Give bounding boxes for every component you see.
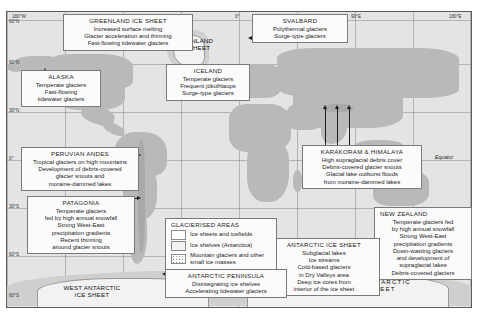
annotation-line: interior of the ice sheet: [274, 286, 374, 293]
annotation-header: GREENLAND ICE SHEET: [69, 17, 187, 25]
axis-label-lon-0: 0°: [235, 14, 239, 19]
annotation-line: Temperate glaciers: [33, 208, 129, 215]
annotation-line: Glacier acceleration and thinning: [69, 33, 187, 40]
annotation-header: ICELAND: [172, 67, 244, 75]
annotation-header: ANTARCTIC ICE SHEET: [274, 241, 374, 249]
legend-glacierised-areas[interactable]: GLACIERISED AREAS Ice sheets and icefiel…: [165, 218, 277, 270]
ice-shelves-swatch-icon: [171, 241, 186, 251]
annotation-header: ALASKA: [27, 73, 95, 81]
annotation-line: Fast-flowing tidewater glaciers: [69, 40, 187, 47]
legend-header: GLACIERISED AREAS: [171, 221, 271, 229]
annotation-line: High supraglacial debris cover: [308, 157, 416, 164]
leader-karakoram-b: [337, 108, 338, 150]
annotation-line: Development of debris-covered: [27, 166, 133, 173]
annotation-line: Surge-type glaciers: [172, 90, 244, 97]
arrow-patagonia: [137, 196, 141, 200]
annotation-line: Ice streams: [274, 257, 374, 264]
axis-label-lon-180e: 180°E: [449, 14, 462, 19]
annotation-line: Disintegrating ice shelves: [171, 281, 281, 288]
annotation-line: from moraine-dammed lakes: [308, 179, 416, 186]
annotation-header: SVALBARD: [258, 17, 342, 25]
annotation-line: around glacier snouts: [33, 244, 129, 251]
annotation-line: Temperate glaciers fed: [380, 219, 466, 226]
annotation-line: Cold-based glaciers: [274, 264, 374, 271]
legend-item-ice-shelves: Ice shelves (Antarctica): [171, 241, 271, 251]
legend-item-mountain-glaciers: Mountain glaciers and other small ice ma…: [171, 252, 271, 267]
annotation-header: NEW ZEALAND: [380, 210, 466, 218]
annotation-line: Accelerating tidewater glaciers: [171, 288, 281, 295]
leader-karakoram-c: [349, 108, 350, 150]
annotation-header: ANTARCTIC PENINSULA: [171, 272, 281, 280]
annotation-line: Temperate glaciers: [27, 82, 95, 89]
annotation-antarctic-peninsula[interactable]: ANTARCTIC PENINSULA Disintegrating ice s…: [165, 269, 287, 298]
land-africa-south: [247, 142, 289, 202]
annotation-line: Fast-flowing: [27, 89, 95, 96]
annotation-line: and development of: [380, 255, 466, 262]
mountain-glaciers-swatch-icon: [171, 254, 186, 264]
annotation-greenland[interactable]: GREENLAND ICE SHEET Increased surface me…: [63, 14, 193, 51]
arrow-karakoram-a: [323, 105, 327, 109]
annotation-karakoram-himalaya[interactable]: KARAKORAM & HIMALAYA High supraglacial d…: [302, 145, 422, 189]
annotation-svalbard[interactable]: SVALBARD Polythermal glaciers Surge-type…: [252, 14, 348, 43]
annotation-line: Increased surface melting: [69, 26, 187, 33]
axis-label-lat-60n-top: 60°N: [9, 19, 19, 24]
annotation-line: Recent thinning: [33, 237, 129, 244]
legend-item-label: Mountain glaciers and other small ice ma…: [190, 252, 268, 267]
annotation-line: Polythermal glaciers: [258, 26, 342, 33]
figure-root: GREENLAND ICE SHEET WEST ANTARCTIC ICE S…: [0, 0, 477, 318]
annotation-header: KARAKORAM & HIMALAYA: [308, 148, 416, 156]
annotation-line: tidewater glaciers: [27, 96, 95, 103]
legend-item-label: Ice sheets and icefields: [190, 231, 252, 238]
map-label-west-antarctic-ice-sheet: WEST ANTARCTIC ICE SHEET: [57, 284, 127, 299]
axis-label-lon-90e: 90°E: [351, 14, 361, 19]
annotation-line: Debris-covered glaciers: [380, 270, 466, 277]
leader-karakoram-a: [325, 108, 326, 150]
annotation-line: Subglacial lakes: [274, 250, 374, 257]
annotation-line: precipitation gradients: [380, 241, 466, 248]
axis-label-lat-30s: 30°S: [9, 204, 19, 209]
annotation-alaska[interactable]: ALASKA Temperate glaciers Fast-flowing t…: [21, 70, 101, 107]
map-label-line: ICE SHEET: [57, 291, 127, 298]
annotation-header: PATAGONIA: [33, 199, 129, 207]
annotation-line: Glacial lake outburst floods: [308, 171, 416, 178]
equator-label: Equator: [435, 154, 453, 160]
annotation-line: Strong West-East: [380, 233, 466, 240]
annotation-line: Debris-covered glacier snouts: [308, 164, 416, 171]
axis-label-lat-30n: 30°N: [9, 108, 19, 113]
annotation-line: Down-wasting glaciers: [380, 248, 466, 255]
axis-label-lat-60s: 60°S: [9, 252, 19, 257]
annotation-line: fed by high annual snowfall: [33, 215, 129, 222]
annotation-line: moraine-dammed lakes: [27, 181, 133, 188]
annotation-line: by high annual snowfall: [380, 226, 466, 233]
axis-label-lat-60n: 60°N: [9, 60, 19, 65]
annotation-line: Strong West-East: [33, 222, 129, 229]
annotation-line: glacier snouts and: [27, 173, 133, 180]
map-label-line: WEST ANTARCTIC: [57, 284, 127, 291]
annotation-patagonia[interactable]: PATAGONIA Temperate glaciers fed by high…: [27, 196, 135, 254]
annotation-line: Frequent jökulhlaups: [172, 83, 244, 90]
axis-label-lat-60s-bottom: 60°S: [9, 293, 19, 298]
annotation-line: Temperate glaciers: [172, 76, 244, 83]
legend-item-ice-sheets: Ice sheets and icefields: [171, 230, 271, 240]
land-madagascar: [293, 170, 302, 192]
annotation-new-zealand[interactable]: NEW ZEALAND Temperate glaciers fed by hi…: [374, 207, 472, 280]
arrow-karakoram-c: [347, 105, 351, 109]
axis-label-lat-0: 0°: [9, 156, 13, 161]
land-arabia: [287, 104, 323, 130]
ice-sheets-swatch-icon: [171, 230, 186, 240]
annotation-header: PERUVIAN ANDES: [27, 150, 133, 158]
annotation-line: Deep ice cores from: [274, 279, 374, 286]
arrow-karakoram-b: [335, 105, 339, 109]
annotation-peruvian-andes[interactable]: PERUVIAN ANDES Tropical glaciers on high…: [21, 147, 139, 191]
legend-item-label: Ice shelves (Antarctica): [190, 242, 252, 249]
annotation-line: in Dry Valleys area: [274, 272, 374, 279]
annotation-iceland[interactable]: ICELAND Temperate glaciers Frequent jöku…: [166, 64, 250, 101]
annotation-line: Tropical glaciers on high mountains: [27, 159, 133, 166]
annotation-line: supraglacial lakes: [380, 262, 466, 269]
annotation-line: precipitation gradients: [33, 230, 129, 237]
annotation-line: Surge-type glaciers: [258, 33, 342, 40]
